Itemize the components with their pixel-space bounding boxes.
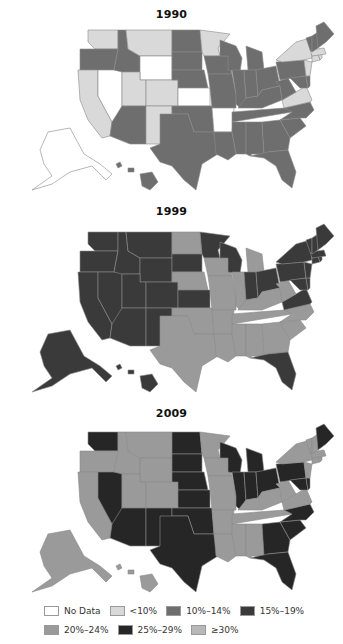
us-map-1990 [0, 0, 343, 205]
state-wa [88, 432, 118, 451]
legend-label: 15%–19% [260, 606, 305, 616]
state-sd [172, 454, 202, 472]
state-hi [140, 172, 158, 190]
state-wa [88, 30, 118, 49]
legend-swatch [240, 606, 255, 616]
state-al [246, 324, 264, 358]
state-or [80, 251, 118, 272]
state-hi [116, 162, 122, 168]
state-ak [32, 128, 112, 190]
state-hi [116, 364, 122, 370]
state-fl [250, 552, 296, 590]
state-sd [172, 52, 202, 70]
state-fl [250, 352, 296, 390]
state-wy [140, 56, 172, 80]
map-panel-1990: 1990 [0, 0, 343, 205]
us-map-1999 [0, 200, 343, 410]
legend-label: No Data [64, 606, 101, 616]
state-co [146, 80, 178, 106]
legend-item-25-29: 25%–29% [118, 625, 183, 635]
state-in [244, 70, 258, 98]
us-map-2009 [0, 402, 343, 602]
state-hi [128, 570, 134, 574]
state-hi [140, 574, 158, 592]
state-ks [178, 88, 210, 106]
state-nd [172, 30, 202, 52]
legend-swatch [110, 606, 125, 616]
state-fl [250, 150, 296, 188]
legend-swatch [118, 625, 133, 635]
legend-item-20-24: 20%–24% [44, 625, 109, 635]
state-nd [172, 432, 202, 454]
state-ny [276, 240, 312, 264]
state-me [316, 22, 334, 48]
legend-row-1: No Data <10% 10%–14% 15%–19% [44, 601, 324, 620]
legend-item-no-data: No Data [44, 606, 101, 616]
legend-swatch [44, 625, 59, 635]
state-sd [172, 254, 202, 272]
state-mi [246, 248, 264, 272]
state-mt [126, 30, 172, 56]
map-panel-1999: 1999 [0, 200, 343, 410]
state-ks [178, 290, 210, 308]
legend-item-ge30: ≥30% [191, 625, 239, 635]
legend-label: 25%–29% [138, 625, 183, 635]
state-in [244, 472, 258, 500]
legend-label: 20%–24% [64, 625, 109, 635]
state-al [246, 122, 264, 156]
legend-item-10-14: 10%–14% [166, 606, 231, 616]
state-hi [128, 168, 134, 172]
state-or [80, 451, 118, 472]
state-mt [126, 432, 172, 458]
state-ar [212, 510, 234, 534]
legend-row-2: 20%–24% 25%–29% ≥30% [44, 620, 324, 639]
legend-swatch [44, 606, 59, 616]
state-ks [178, 490, 210, 508]
state-hi [140, 374, 158, 392]
state-me [316, 224, 334, 250]
state-mt [126, 232, 172, 258]
state-mo [208, 476, 236, 510]
legend-label: <10% [130, 606, 158, 616]
state-hi [128, 370, 134, 374]
state-ar [212, 108, 234, 132]
state-ny [276, 440, 312, 464]
state-wa [88, 232, 118, 251]
state-ny [276, 38, 312, 62]
map-legend: No Data <10% 10%–14% 15%–19% 20%–24% 25%… [44, 601, 324, 639]
state-mo [208, 74, 236, 108]
state-mi [246, 46, 264, 70]
state-ak [32, 330, 112, 392]
state-me [316, 424, 334, 450]
legend-swatch [191, 625, 206, 635]
state-al [246, 524, 264, 558]
map-panel-2009: 2009 [0, 402, 343, 602]
state-in [244, 272, 258, 300]
state-co [146, 482, 178, 508]
legend-label: ≥30% [211, 625, 239, 635]
state-hi [116, 564, 122, 570]
state-mi [246, 448, 264, 472]
legend-item-lt10: <10% [110, 606, 158, 616]
state-mo [208, 276, 236, 310]
state-ak [32, 530, 112, 592]
legend-swatch [166, 606, 181, 616]
legend-item-15-19: 15%–19% [240, 606, 305, 616]
state-wy [140, 458, 172, 482]
state-co [146, 282, 178, 308]
state-wy [140, 258, 172, 282]
state-nd [172, 232, 202, 254]
state-ar [212, 310, 234, 334]
legend-label: 10%–14% [186, 606, 231, 616]
state-or [80, 49, 118, 70]
